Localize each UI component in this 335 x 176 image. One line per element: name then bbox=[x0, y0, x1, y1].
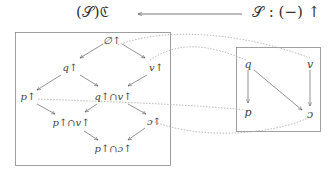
node-p-cap-v: p↑∩v↑ bbox=[52, 117, 89, 128]
left-header-label: (𝒮)ℭ bbox=[76, 3, 109, 21]
rnode-c: ɔ bbox=[307, 108, 313, 121]
rnode-q: q bbox=[244, 58, 251, 71]
node-p: p↑ bbox=[21, 91, 36, 102]
diagram-canvas bbox=[0, 0, 335, 176]
node-p-cap-c: p↑∩ɔ↑ bbox=[94, 143, 131, 154]
node-c: ɔ↑ bbox=[147, 116, 161, 127]
node-empty: ∅↑ bbox=[103, 35, 120, 46]
node-q: q↑ bbox=[63, 62, 78, 73]
node-q-cap-v: q↑∩v↑ bbox=[94, 91, 131, 102]
rnode-v: v bbox=[307, 58, 313, 71]
node-v: v↑ bbox=[149, 62, 163, 73]
rnode-p: p bbox=[244, 106, 251, 119]
right-header-label: 𝒮 : (−) ↑ bbox=[252, 3, 320, 21]
